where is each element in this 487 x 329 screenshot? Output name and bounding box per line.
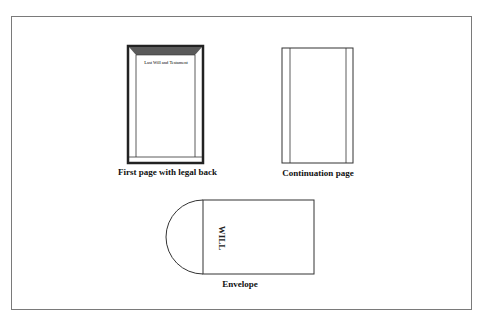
legal-back-top-band	[129, 47, 202, 55]
envelope-caption: Envelope	[210, 279, 270, 289]
envelope-figure	[164, 198, 318, 278]
envelope-flap	[166, 200, 203, 274]
first-page-caption: First page with legal back	[115, 167, 220, 177]
continuation-page-border	[282, 48, 353, 163]
continuation-page-caption: Continuation page	[268, 168, 368, 178]
envelope-label: WILL	[217, 226, 227, 251]
first-page-figure: Last Will and Testament	[126, 44, 206, 166]
continuation-page-figure	[281, 47, 355, 165]
will-title-text: Last Will and Testament	[144, 60, 188, 65]
